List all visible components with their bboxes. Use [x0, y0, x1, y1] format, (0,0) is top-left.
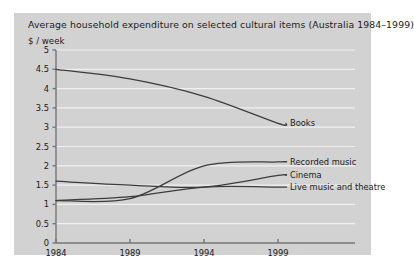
x-tick-label: 1989: [110, 248, 150, 258]
y-tick-label: 3: [23, 122, 49, 132]
y-tick-label: 2: [23, 161, 49, 171]
y-tick-label: 0: [23, 238, 49, 248]
y-tick-label: 2.5: [23, 142, 49, 152]
y-tick-label: 5: [23, 45, 49, 55]
y-tick-label: 4.5: [23, 64, 49, 74]
series-line-recorded-music: [56, 162, 287, 202]
x-tick-label: 1994: [184, 248, 224, 258]
series-line-books: [56, 69, 287, 125]
y-tick-label: 0.5: [23, 219, 49, 229]
series-label-cinema: Cinema: [290, 170, 322, 180]
series-label-books: Books: [290, 118, 315, 128]
x-tick-label: 1999: [258, 248, 298, 258]
y-tick-label: 1: [23, 199, 49, 209]
series-line-live-music-and-theatre: [56, 186, 287, 200]
y-tick-label: 3.5: [23, 103, 49, 113]
x-tick-label: 1984: [36, 248, 76, 258]
gridlines: [56, 50, 355, 224]
series-label-live-music-and-theatre: Live music and theatre: [290, 182, 385, 192]
y-tick-label: 4: [23, 84, 49, 94]
y-tick-label: 1.5: [23, 180, 49, 190]
series-label-recorded-music: Recorded music: [290, 157, 356, 167]
